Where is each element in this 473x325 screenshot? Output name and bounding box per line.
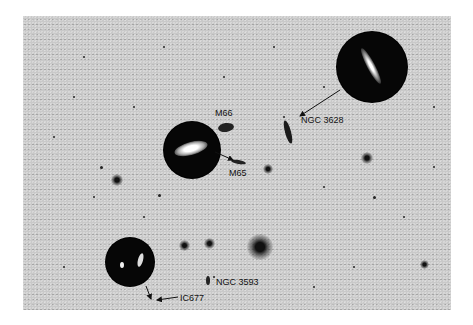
label-m65: M65 <box>229 168 247 178</box>
label-m66: M66 <box>215 108 233 118</box>
label-ngc3628: NGC 3628 <box>301 115 344 125</box>
label-ic677: IC677 <box>180 293 204 303</box>
label-ngc3593: NGC 3593 <box>216 277 259 287</box>
